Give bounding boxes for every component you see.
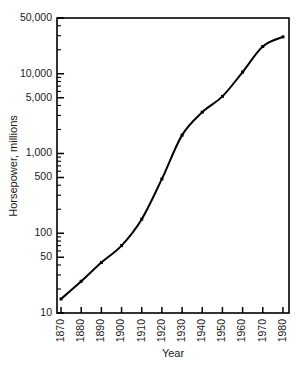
- data-point-marker: [261, 45, 264, 48]
- x-tick-label: 1920: [155, 319, 167, 343]
- data-point-marker: [100, 261, 103, 264]
- y-tick-label: 10,000: [20, 67, 52, 79]
- data-point-marker: [140, 218, 143, 221]
- x-tick-label: 1950: [215, 319, 227, 343]
- chart-page: 10501005001,0005,00010,00050,000 1870188…: [0, 0, 304, 365]
- y-tick-label: 1,000: [26, 146, 52, 158]
- x-tick-label: 1970: [256, 319, 268, 343]
- y-tick-label: 5,000: [26, 91, 52, 103]
- x-tick-label: 1980: [276, 319, 288, 343]
- data-point-marker: [201, 111, 204, 114]
- y-tick-label: 50,000: [20, 11, 52, 23]
- x-tick-label: 1940: [195, 319, 207, 343]
- data-point-marker: [60, 297, 63, 300]
- y-tick-label: 10: [40, 306, 52, 318]
- y-tick-label: 500: [34, 170, 52, 182]
- data-point-marker: [241, 71, 244, 74]
- horsepower-series-line: [61, 37, 283, 299]
- data-point-marker: [221, 95, 224, 98]
- x-axis-tick-labels: 1870188018901900191019201930194019501960…: [54, 319, 288, 343]
- y-tick-label: 50: [40, 250, 52, 262]
- data-point-marker: [80, 280, 83, 283]
- horsepower-line-chart: 10501005001,0005,00010,00050,000 1870188…: [0, 0, 304, 365]
- x-tick-label: 1960: [235, 319, 247, 343]
- x-tick-label: 1890: [94, 319, 106, 343]
- data-point-marker: [181, 134, 184, 137]
- x-tick-label: 1880: [74, 319, 86, 343]
- data-point-marker: [120, 244, 123, 247]
- x-tick-label: 1870: [54, 319, 66, 343]
- y-axis-title: Horsepower, millions: [7, 115, 19, 217]
- plot-frame: [57, 18, 289, 313]
- horsepower-series-markers: [60, 35, 285, 300]
- data-point-marker: [281, 35, 284, 38]
- x-tick-label: 1900: [114, 319, 126, 343]
- data-point-marker: [160, 177, 163, 180]
- x-tick-label: 1910: [135, 319, 147, 343]
- y-axis-tick-labels: 10501005001,0005,00010,00050,000: [20, 11, 52, 318]
- x-axis-major-ticks: [61, 307, 283, 313]
- x-axis-title: Year: [162, 347, 185, 359]
- x-tick-label: 1930: [175, 319, 187, 343]
- y-tick-label: 100: [34, 226, 52, 238]
